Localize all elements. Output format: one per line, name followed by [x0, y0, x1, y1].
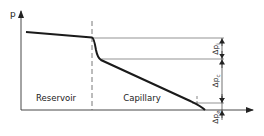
delta-p-inlet-label: Δpi: [211, 43, 221, 55]
pressure-profile-diagram: p Δpi Δpc Δpe Reservoir Capillary: [0, 0, 264, 136]
y-axis-label: p: [10, 9, 16, 19]
delta-p-capillary-label: Δpc: [211, 75, 221, 88]
region-label-reservoir: Reservoir: [36, 93, 76, 103]
delta-p-exit-label: Δpe: [211, 110, 221, 124]
svg-text:Δpe: Δpe: [211, 110, 221, 124]
region-label-capillary: Capillary: [123, 93, 160, 103]
svg-text:Δpc: Δpc: [211, 75, 221, 88]
svg-text:Δpi: Δpi: [211, 43, 221, 55]
